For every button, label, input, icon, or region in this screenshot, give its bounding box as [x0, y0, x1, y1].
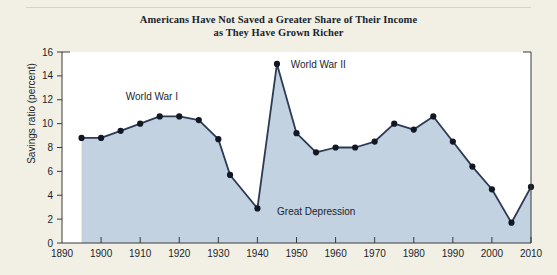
data-point — [137, 121, 143, 127]
data-point — [411, 126, 417, 132]
x-tick-label: 1940 — [246, 248, 269, 259]
data-point — [118, 128, 124, 134]
y-tick-label: 14 — [42, 70, 54, 81]
x-tick-label: 1930 — [207, 248, 230, 259]
y-tick-label: 16 — [42, 47, 54, 58]
data-point — [489, 186, 495, 192]
data-point — [215, 136, 221, 142]
data-point — [450, 138, 456, 144]
x-tick-label: 1910 — [129, 248, 152, 259]
y-tick-label: 10 — [42, 118, 54, 129]
chart-figure: Americans Have Not Saved a Greater Share… — [0, 0, 557, 275]
data-point — [332, 144, 338, 150]
data-point — [372, 138, 378, 144]
x-tick-label: 2010 — [520, 248, 543, 259]
data-point — [227, 172, 233, 178]
data-point — [98, 135, 104, 141]
data-point — [274, 61, 280, 67]
x-tick-label: 1990 — [442, 248, 465, 259]
data-point — [508, 220, 514, 226]
x-tick-label: 1960 — [324, 248, 347, 259]
x-tick-label: 1950 — [285, 248, 308, 259]
y-tick-label: 8 — [47, 142, 53, 153]
y-tick-label: 2 — [47, 214, 53, 225]
x-tick-label: 1890 — [51, 248, 74, 259]
data-point — [313, 149, 319, 155]
y-tick-label: 0 — [47, 238, 53, 249]
data-point — [78, 135, 84, 141]
chart-plot-area: 0246810121416189019001910192019301940195… — [0, 0, 557, 275]
data-point — [391, 121, 397, 127]
chart-annotation: Great Depression — [277, 206, 355, 217]
x-tick-label: 1970 — [364, 248, 387, 259]
data-point — [430, 113, 436, 119]
x-tick-label: 1920 — [168, 248, 191, 259]
data-point — [352, 144, 358, 150]
data-point — [196, 117, 202, 123]
y-tick-label: 4 — [47, 190, 53, 201]
y-tick-label: 12 — [42, 94, 54, 105]
x-tick-label: 1980 — [403, 248, 426, 259]
data-point — [293, 130, 299, 136]
chart-annotation: World War II — [291, 59, 346, 70]
x-tick-label: 1900 — [90, 248, 113, 259]
data-point — [469, 164, 475, 170]
data-point — [176, 113, 182, 119]
x-tick-label: 2000 — [481, 248, 504, 259]
y-tick-label: 6 — [47, 166, 53, 177]
data-point — [254, 205, 260, 211]
chart-annotation: World War I — [126, 91, 178, 102]
data-point — [157, 113, 163, 119]
